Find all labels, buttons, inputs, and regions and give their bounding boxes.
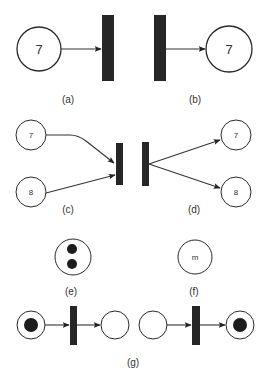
arc-c-7	[46, 135, 114, 163]
caption-b: (b)	[189, 94, 201, 105]
arc-d-8	[149, 164, 220, 188]
place-f-label: m	[192, 253, 199, 262]
transition-c	[116, 143, 123, 185]
place-b-label: 7	[225, 42, 232, 57]
place-g-before-output	[101, 311, 129, 339]
arc-d-7	[149, 140, 220, 164]
panel-g: (g)	[17, 306, 254, 368]
place-d-7-label: 7	[234, 131, 239, 140]
caption-e: (e)	[65, 286, 77, 297]
token-icon	[233, 318, 247, 332]
token-icon	[24, 318, 38, 332]
transition-g-before	[70, 306, 77, 345]
panel-a: 7 (a)	[17, 15, 114, 105]
panel-d: 7 8 (d)	[142, 120, 251, 215]
caption-a: (a)	[62, 94, 74, 105]
panel-f: m (f)	[178, 240, 212, 297]
arc-c-8	[46, 175, 115, 193]
token-icon	[67, 244, 77, 254]
caption-c: (c)	[62, 204, 74, 215]
panel-e: (e)	[55, 239, 91, 297]
place-c-8-label: 8	[29, 188, 34, 197]
transition-b	[154, 15, 166, 81]
place-a-label: 7	[35, 42, 42, 57]
panel-c: 7 8 (c)	[16, 120, 123, 215]
place-c-7-label: 7	[29, 131, 34, 140]
caption-d: (d)	[188, 204, 200, 215]
panel-b: 7 (b)	[154, 15, 252, 105]
caption-g: (g)	[127, 357, 139, 368]
caption-f: (f)	[189, 286, 198, 297]
token-icon	[67, 259, 77, 269]
place-g-after-input	[139, 311, 167, 339]
place-d-8-label: 8	[234, 188, 239, 197]
transition-g-after	[192, 306, 200, 345]
transition-d	[142, 142, 149, 186]
transition-a	[102, 15, 114, 81]
petri-net-diagram: 7 (a) 7 (b) 7 8 (c) 7 8 (d) (e	[0, 0, 267, 384]
